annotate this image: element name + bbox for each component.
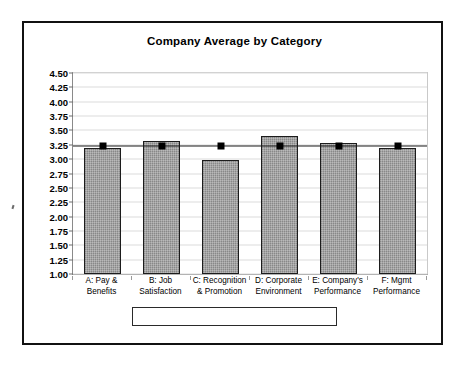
x-axis-label: F: Mgmt Performance xyxy=(367,276,426,306)
bar xyxy=(379,148,416,274)
bar xyxy=(202,160,239,274)
y-axis-tick-mark xyxy=(69,73,73,74)
y-axis-tick-mark xyxy=(69,130,73,131)
overall-average-marker xyxy=(158,142,165,149)
x-axis-label: E: Company's Performance xyxy=(308,276,367,306)
plot-area: 4.504.254.003.753.503.253.002.752.502.25… xyxy=(72,72,428,275)
overall-average-marker xyxy=(276,142,283,149)
y-axis-tick-mark xyxy=(69,202,73,203)
x-axis-tick-mark xyxy=(308,276,309,280)
y-axis-tick-mark xyxy=(69,159,73,160)
gridline xyxy=(73,216,427,217)
y-axis-tick-label: 2.25 xyxy=(50,197,69,208)
chart-title: Company Average by Category xyxy=(24,35,445,47)
y-axis-tick-mark xyxy=(69,259,73,260)
bar xyxy=(143,141,180,274)
y-axis-tick-mark xyxy=(69,101,73,102)
gridline xyxy=(73,274,427,275)
y-axis-tick-label: 2.50 xyxy=(50,182,69,193)
bar xyxy=(84,148,121,274)
gridline xyxy=(73,101,427,102)
y-axis-tick-mark xyxy=(69,87,73,88)
x-axis-tick-mark xyxy=(72,276,73,280)
y-axis-tick-mark xyxy=(69,173,73,174)
x-axis-labels: A: Pay & BenefitsB: Job SatisfactionC: R… xyxy=(72,276,426,306)
y-axis-tick-label: 2.75 xyxy=(50,168,69,179)
y-axis-tick-mark xyxy=(69,274,73,275)
chart-page: Company Average by Category 4.504.254.00… xyxy=(0,0,464,365)
x-axis-tick-mark xyxy=(249,276,250,280)
y-axis-tick-label: 3.25 xyxy=(50,139,69,150)
gridline xyxy=(73,130,427,131)
gridline xyxy=(73,87,427,88)
chart-frame: Company Average by Category 4.504.254.00… xyxy=(22,21,443,345)
gridline xyxy=(73,159,427,160)
gridline xyxy=(73,230,427,231)
y-axis-tick-label: 3.50 xyxy=(50,125,69,136)
x-axis-label: D: Corporate Environment xyxy=(249,276,308,306)
y-axis-tick-label: 4.25 xyxy=(50,82,69,93)
overall-average-marker xyxy=(99,142,106,149)
y-axis-tick-mark xyxy=(69,230,73,231)
legend: Category AverageOverall Average xyxy=(132,307,337,326)
y-axis-tick-label: 4.00 xyxy=(50,96,69,107)
y-axis-tick-label: 4.50 xyxy=(50,68,69,79)
gridline xyxy=(73,202,427,203)
x-axis-label: C: Recognition & Promotion xyxy=(190,276,249,306)
y-axis-tick-label: 3.75 xyxy=(50,111,69,122)
overall-average-marker xyxy=(394,142,401,149)
overall-average-marker xyxy=(217,142,224,149)
y-axis-tick-mark xyxy=(69,116,73,117)
x-axis-tick-mark xyxy=(367,276,368,280)
y-axis-tick-label: 1.75 xyxy=(50,225,69,236)
y-axis-tick-label: 1.00 xyxy=(50,269,69,280)
y-axis-tick-label: 2.00 xyxy=(50,211,69,222)
y-axis-tick-label: 1.25 xyxy=(50,254,69,265)
gridline xyxy=(73,187,427,188)
x-axis-label: B: Job Satisfaction xyxy=(131,276,190,306)
x-axis-tick-mark xyxy=(426,276,427,280)
x-axis-tick-mark xyxy=(131,276,132,280)
y-axis-tick-label: 3.00 xyxy=(50,154,69,165)
gridline xyxy=(73,173,427,174)
x-axis-tick-mark xyxy=(190,276,191,280)
overall-average-marker xyxy=(335,142,342,149)
gridline xyxy=(73,259,427,260)
y-axis-tick-label: 1.50 xyxy=(50,240,69,251)
bar xyxy=(320,143,357,275)
x-axis-label: A: Pay & Benefits xyxy=(72,276,131,306)
gridline xyxy=(73,73,427,74)
bar xyxy=(261,136,298,274)
gridline xyxy=(73,116,427,117)
overall-average-line xyxy=(73,145,427,146)
scan-artifact-speck xyxy=(11,205,14,209)
y-axis-tick-mark xyxy=(69,245,73,246)
gridline xyxy=(73,245,427,246)
y-axis-tick-mark xyxy=(69,216,73,217)
y-axis-tick-mark xyxy=(69,187,73,188)
